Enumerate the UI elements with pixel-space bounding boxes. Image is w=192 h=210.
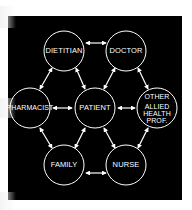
arrow-dietitian-pharmacist [40,68,52,89]
node-label-nurse: NURSE [113,161,140,169]
label-line-prof: PROF. [143,117,171,124]
arrow-doctor-other [138,68,148,89]
arrow-other-nurse [138,128,148,148]
node-label-pharmacist: PHARMACIST [7,104,54,112]
node-label-doctor: DOCTOR [110,47,143,55]
label-line-health: HEALTH [143,110,171,117]
node-label-patient: PATIENT [79,104,110,112]
node-label-family: FAMILY [51,161,78,169]
arrow-doctor-patient [104,68,115,89]
arrow-patient-family [75,128,85,148]
arrow-pharmacist-family [40,128,52,148]
node-label-dietitian: DIETITIAN [45,47,82,55]
arrow-dietitian-patient [76,68,85,89]
node-label-other-allied-health: OTHER ALLIED HEALTH PROF. [143,93,171,124]
label-line-allied: ALLIED [143,103,171,110]
arrow-patient-nurse [104,128,115,148]
label-line-other: OTHER [143,93,171,100]
